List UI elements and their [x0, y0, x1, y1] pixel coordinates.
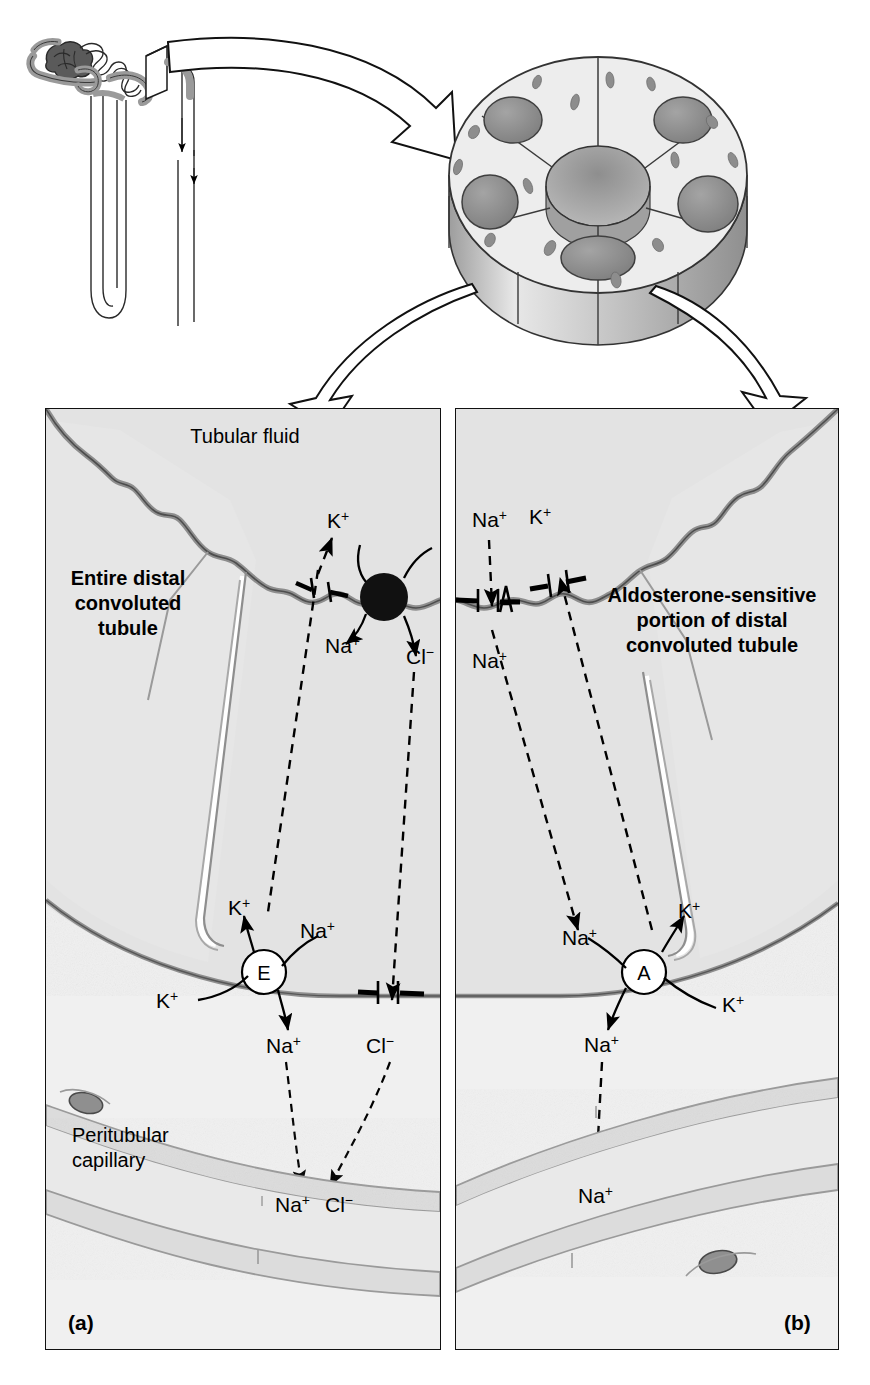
panel-a-tag: (a) — [68, 1311, 94, 1334]
panel-a-title-line3: tubule — [98, 617, 158, 639]
tubular-fluid-label: Tubular fluid — [190, 425, 299, 447]
panel-b-title-line3: convoluted tubule — [626, 634, 798, 656]
tubule-cross-section — [449, 57, 747, 345]
dct-highlight-marker — [146, 46, 167, 99]
pump-e-label: E — [257, 962, 270, 984]
panel-a: Tubular fluid Entire distal convoluted t… — [46, 409, 440, 1349]
panel-b-title-line1: Aldosterone-sensitive — [608, 584, 817, 606]
panel-b-title-line2: portion of distal — [636, 609, 787, 631]
figure-root: Tubular fluid Entire distal convoluted t… — [0, 0, 870, 1385]
panel-a-title-line2: convoluted — [75, 592, 182, 614]
zoom-arrow-to-panel-a — [290, 284, 477, 428]
peritubular-capillary-label-1: Peritubular — [72, 1124, 169, 1146]
panel-b-tag: (b) — [784, 1311, 811, 1334]
zoom-arrow-to-cross-section — [168, 38, 456, 160]
peritubular-capillary-label-2: capillary — [72, 1149, 145, 1171]
glomerulus-icon — [46, 42, 93, 79]
pump-a-label: A — [637, 962, 651, 984]
panel-b: Aldosterone-sensitive portion of distal … — [456, 409, 838, 1349]
nacl-cotransporter-icon — [360, 573, 408, 621]
panel-a-title-line1: Entire distal — [71, 567, 185, 589]
nephron-schematic — [30, 41, 194, 326]
loop-of-henle-icon — [91, 96, 126, 318]
